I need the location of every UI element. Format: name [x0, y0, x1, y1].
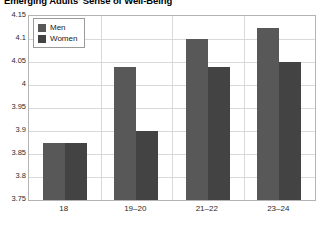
x-axis-tick-label: 23–24 — [243, 203, 315, 215]
y-axis: 4.154.14.0543.953.93.853.83.75 — [0, 15, 26, 201]
chart-legend: Men Women — [33, 18, 85, 48]
legend-item-women: Women — [38, 33, 77, 44]
bar-men-2 — [186, 39, 208, 200]
legend-swatch-men — [38, 24, 46, 32]
bar-men-3 — [257, 28, 279, 201]
y-axis-tick-label: 4.1 — [0, 34, 26, 42]
category-separator — [101, 16, 102, 200]
y-axis-tick-label: 4 — [0, 80, 26, 88]
category-separator — [244, 16, 245, 200]
x-axis-tick-label: 18 — [28, 203, 100, 215]
y-axis-tick-label: 4.15 — [0, 11, 26, 19]
legend-label-men: Men — [50, 23, 66, 32]
y-axis-tick-label: 3.85 — [0, 149, 26, 157]
x-axis-tick-label: 21–22 — [171, 203, 243, 215]
legend-swatch-women — [38, 35, 46, 43]
y-axis-tick-label: 3.8 — [0, 172, 26, 180]
x-axis: 1819–2021–2223–24 — [28, 203, 316, 219]
y-axis-tick-label: 3.75 — [0, 195, 26, 203]
bar-women-0 — [65, 143, 87, 201]
legend-item-men: Men — [38, 22, 77, 33]
x-axis-tick-label: 19–20 — [100, 203, 172, 215]
bar-women-3 — [279, 62, 301, 200]
chart-container: Emerging Adults' Sense of Well-Being 4.1… — [0, 0, 321, 225]
y-axis-tick-label: 4.05 — [0, 57, 26, 65]
category-separator — [172, 16, 173, 200]
bar-men-0 — [43, 143, 65, 201]
legend-label-women: Women — [50, 34, 77, 43]
y-axis-tick-label: 3.9 — [0, 126, 26, 134]
y-axis-tick-label: 3.95 — [0, 103, 26, 111]
chart-title: Emerging Adults' Sense of Well-Being — [4, 0, 172, 6]
bar-women-2 — [208, 67, 230, 200]
bar-men-1 — [114, 67, 136, 200]
bar-women-1 — [136, 131, 158, 200]
